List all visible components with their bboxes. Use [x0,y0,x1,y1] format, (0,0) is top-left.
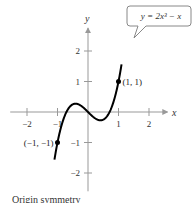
figure-caption: Origin symmetry [12,194,81,203]
y-tick-label: 2 [76,46,81,56]
y-tick-label: −1 [70,138,80,148]
x-tick-label: 2 [147,119,152,129]
point-marker [116,79,121,84]
y-tick-label: −2 [70,168,80,178]
x-axis-label: x [171,107,177,118]
point-label: (−1, −1) [24,138,54,148]
equation-label: y = 2x³ − x [140,11,181,21]
x-tick-label: 1 [116,119,121,129]
y-tick-label: 1 [76,77,81,87]
y-axis-label: y [84,13,90,24]
point-marker [55,140,60,145]
x-tick-label: −2 [22,119,32,129]
point-label: (1, 1) [123,77,143,87]
function-graph: xy−2−112−2−112 (1, 1)(−1, −1) y = 2x³ − … [0,0,192,203]
